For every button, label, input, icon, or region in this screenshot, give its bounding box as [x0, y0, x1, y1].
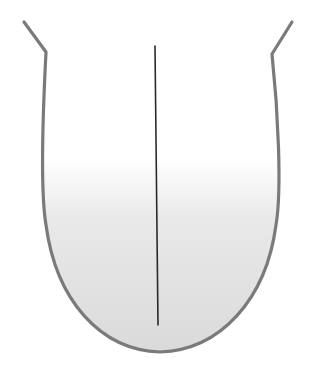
tongue-illustration [0, 0, 310, 368]
tongue-diagram [0, 0, 310, 368]
